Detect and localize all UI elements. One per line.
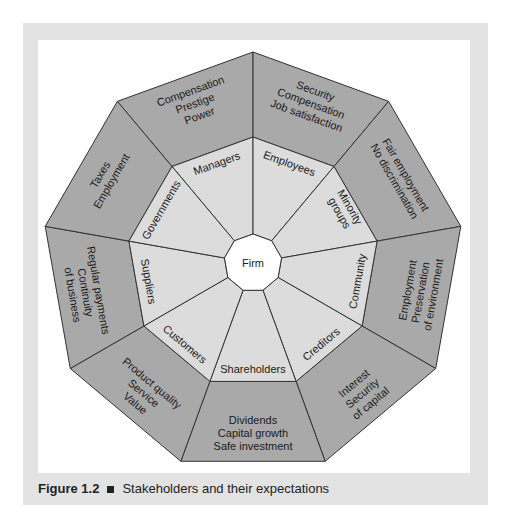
- figure-caption: Figure 1.2Stakeholders and their expecta…: [38, 481, 329, 496]
- segment-text: Safe investment: [214, 440, 293, 452]
- stakeholder-wheel: ManagersCompensationPrestigePowerEmploye…: [0, 0, 510, 525]
- segment-text: Shareholders: [220, 363, 286, 375]
- caption-text: Stakeholders and their expectations: [122, 481, 329, 496]
- center-label: Firm: [242, 257, 264, 269]
- square-bullet-icon: [107, 486, 114, 493]
- segment-text: Dividends: [229, 414, 278, 426]
- caption-number: Figure 1.2: [38, 481, 99, 496]
- stakeholder-label: Shareholders: [220, 363, 286, 375]
- segment-text: Capital growth: [218, 427, 288, 439]
